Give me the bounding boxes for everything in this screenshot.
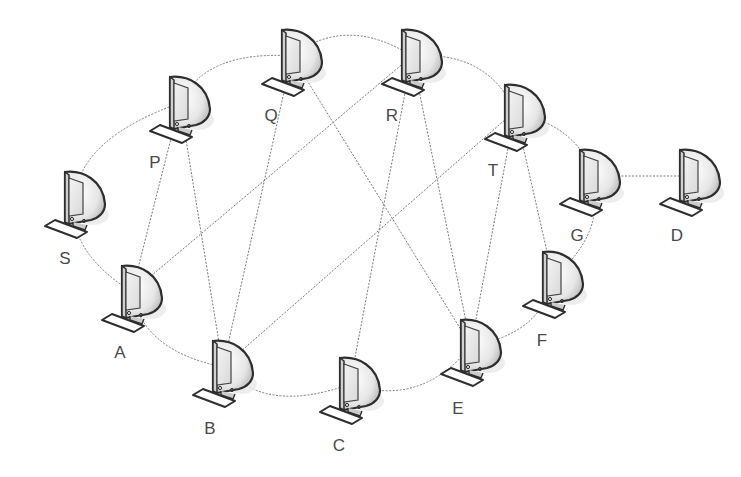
node-label: P [149,153,160,172]
node-label: A [114,343,126,362]
node-label: Q [264,106,277,125]
link-q-b [223,56,292,367]
node-label: F [537,331,547,350]
node-label: R [386,106,398,125]
computer-icon [45,172,109,238]
computer-icon [382,30,446,96]
connection-lines [74,35,690,396]
node-s: S [45,172,109,268]
computer-icon [102,266,166,332]
node-label: T [488,161,498,180]
node-r: R [382,30,446,125]
network-diagram: PQRTGDSABCEF [0,0,741,477]
node-q: Q [262,30,326,125]
link-r-e [412,56,471,346]
computer-icon [150,77,214,143]
node-d: D [660,150,724,245]
link-q-e [292,56,471,346]
computer-icon [262,30,326,96]
node-t: T [485,85,549,180]
node-b: B [193,341,257,438]
computer-icon [485,85,549,151]
node-p: P [149,77,214,172]
computer-icon [441,320,505,386]
node-g: G [560,150,624,245]
computer-icon [193,341,257,407]
node-label: G [570,226,583,245]
computer-icon [560,150,624,216]
node-label: E [452,399,463,418]
link-p-b [180,103,223,367]
node-label: B [204,419,215,438]
node-f: F [523,252,587,350]
node-c: C [320,358,384,455]
node-a: A [102,266,166,362]
node-label: C [333,436,345,455]
computer-nodes: PQRTGDSABCEF [45,30,724,455]
node-e: E [441,320,505,418]
computer-icon [660,150,724,216]
node-label: D [671,226,683,245]
computer-icon [523,252,587,318]
link-r-c [350,56,412,384]
node-label: S [59,249,70,268]
